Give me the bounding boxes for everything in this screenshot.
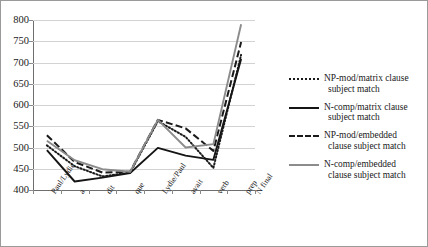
series-line-1	[47, 59, 241, 181]
y-tick-mark	[29, 20, 33, 21]
legend-label: N-comp/embeddedclause subject match	[324, 159, 406, 181]
y-tick-label: 400	[13, 185, 29, 196]
y-tick-mark	[29, 41, 33, 42]
y-tick-mark	[29, 84, 33, 85]
y-tick-label: 650	[13, 79, 29, 90]
series-line-2	[47, 42, 241, 172]
y-tick-label: 700	[13, 57, 29, 68]
y-tick-label: 450	[13, 164, 29, 175]
legend-key-solid-gray-icon	[287, 159, 321, 171]
chart-legend: NP-mod/matrix clausesubject matchN-comp/…	[287, 73, 427, 188]
legend-label: NP-mod/matrix clausesubject match	[324, 73, 409, 95]
chart-container: 400450500550600650700750800 Paul/Lydiead…	[0, 0, 428, 247]
legend-key-dotted-icon	[287, 73, 321, 85]
legend-item: NP-mod/embeddedclause subject match	[287, 130, 427, 152]
legend-item: NP-mod/matrix clausesubject match	[287, 73, 427, 95]
legend-key-solid-icon	[287, 102, 321, 114]
y-tick-mark	[29, 169, 33, 170]
y-tick-mark	[29, 105, 33, 106]
x-axis-labels: Paul/LydieaditqueLydie/Paulavaitverbprep…	[33, 191, 255, 247]
y-tick-mark	[29, 63, 33, 64]
y-tick-label: 600	[13, 100, 29, 111]
y-tick-label: 800	[13, 15, 29, 26]
y-tick-label: 500	[13, 142, 29, 153]
series-line-0	[47, 55, 241, 177]
legend-item: N-comp/embeddedclause subject match	[287, 159, 427, 181]
legend-label: NP-mod/embeddedclause subject match	[324, 130, 406, 152]
legend-item: N-comp/matrix clausesubject match	[287, 102, 427, 124]
y-axis-labels: 400450500550600650700750800	[1, 20, 29, 190]
y-tick-label: 750	[13, 36, 29, 47]
y-tick-label: 550	[13, 121, 29, 132]
legend-key-dashed-icon	[287, 130, 321, 142]
y-tick-mark	[29, 148, 33, 149]
legend-label: N-comp/matrix clausesubject match	[324, 102, 408, 124]
y-tick-mark	[29, 126, 33, 127]
